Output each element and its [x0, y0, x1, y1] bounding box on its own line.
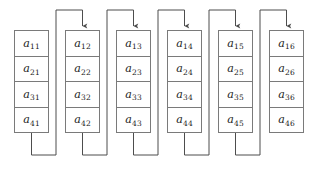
- cell-label-base: a: [74, 62, 81, 75]
- cell-label: a14: [176, 38, 193, 49]
- cell-a41: a41: [14, 107, 49, 134]
- cell-label: a21: [23, 63, 40, 74]
- cell-label: a46: [278, 114, 295, 125]
- cell-a22: a22: [65, 56, 100, 83]
- cell-label: a11: [23, 38, 40, 49]
- cell-label-subscript: 16: [285, 42, 295, 51]
- cell-a45: a45: [218, 107, 253, 134]
- cell-label-subscript: 46: [285, 119, 295, 128]
- cell-label: a31: [23, 89, 40, 100]
- cell-label-subscript: 21: [30, 68, 40, 77]
- cell-label: a23: [125, 63, 142, 74]
- cell-a11: a11: [14, 30, 49, 57]
- cell-label: a33: [125, 89, 142, 100]
- cell-a42: a42: [65, 107, 100, 134]
- cell-a13: a13: [116, 30, 151, 57]
- cell-label-base: a: [176, 37, 183, 50]
- cell-label-subscript: 11: [30, 42, 40, 51]
- cell-label-base: a: [227, 88, 234, 101]
- cell-label-base: a: [278, 113, 285, 126]
- cell-label-subscript: 14: [183, 42, 193, 51]
- cell-label-base: a: [176, 113, 183, 126]
- cell-label-base: a: [74, 88, 81, 101]
- column-5: a15a25a35a45: [218, 30, 253, 133]
- cell-a16: a16: [269, 30, 304, 57]
- cell-label-subscript: 24: [183, 68, 193, 77]
- cell-label: a45: [227, 114, 244, 125]
- cell-label: a43: [125, 114, 142, 125]
- cell-a36: a36: [269, 81, 304, 108]
- cell-a35: a35: [218, 81, 253, 108]
- cell-label-base: a: [227, 62, 234, 75]
- cell-a33: a33: [116, 81, 151, 108]
- cell-a23: a23: [116, 56, 151, 83]
- cell-label-base: a: [125, 62, 132, 75]
- cell-a24: a24: [167, 56, 202, 83]
- cell-label-base: a: [23, 62, 30, 75]
- cell-a31: a31: [14, 81, 49, 108]
- cell-label-subscript: 45: [234, 119, 244, 128]
- column-6: a16a26a36a46: [269, 30, 304, 133]
- cell-label: a35: [227, 89, 244, 100]
- column-1: a11a21a31a41: [14, 30, 49, 133]
- cell-label-subscript: 42: [81, 119, 91, 128]
- cell-label: a22: [74, 63, 91, 74]
- cell-label-subscript: 41: [30, 119, 40, 128]
- cell-label-subscript: 23: [132, 68, 142, 77]
- cell-label: a41: [23, 114, 40, 125]
- cell-label-subscript: 34: [183, 93, 193, 102]
- cell-label-subscript: 25: [234, 68, 244, 77]
- cell-a26: a26: [269, 56, 304, 83]
- cell-label: a26: [278, 63, 295, 74]
- cell-a43: a43: [116, 107, 151, 134]
- linked-array-diagram: a11a21a31a41a12a22a32a42a13a23a33a43a14a…: [0, 0, 313, 170]
- cell-label: a42: [74, 114, 91, 125]
- cell-label-base: a: [74, 113, 81, 126]
- cell-label-subscript: 15: [234, 42, 244, 51]
- cell-a21: a21: [14, 56, 49, 83]
- cell-label-subscript: 33: [132, 93, 142, 102]
- cell-label-base: a: [23, 113, 30, 126]
- cell-label: a25: [227, 63, 244, 74]
- cell-label-base: a: [23, 37, 30, 50]
- cell-label: a15: [227, 38, 244, 49]
- cell-label-base: a: [278, 62, 285, 75]
- cell-label: a44: [176, 114, 193, 125]
- cell-label-subscript: 22: [81, 68, 91, 77]
- cell-label-subscript: 36: [285, 93, 295, 102]
- cell-a12: a12: [65, 30, 100, 57]
- cell-label-subscript: 12: [81, 42, 91, 51]
- cell-label: a12: [74, 38, 91, 49]
- cell-a44: a44: [167, 107, 202, 134]
- cell-label-base: a: [125, 113, 132, 126]
- cell-label-base: a: [278, 88, 285, 101]
- cell-label: a24: [176, 63, 193, 74]
- cell-label: a34: [176, 89, 193, 100]
- cell-label-subscript: 31: [30, 93, 40, 102]
- cell-a46: a46: [269, 107, 304, 134]
- cell-label-base: a: [23, 88, 30, 101]
- cell-label-base: a: [125, 37, 132, 50]
- cell-label-base: a: [278, 37, 285, 50]
- cell-a14: a14: [167, 30, 202, 57]
- cell-a25: a25: [218, 56, 253, 83]
- cell-label-subscript: 44: [183, 119, 193, 128]
- cell-label-base: a: [227, 37, 234, 50]
- column-4: a14a24a34a44: [167, 30, 202, 133]
- cell-label-base: a: [74, 37, 81, 50]
- column-3: a13a23a33a43: [116, 30, 151, 133]
- cell-label-subscript: 13: [132, 42, 142, 51]
- cell-label-base: a: [176, 62, 183, 75]
- cell-label-subscript: 26: [285, 68, 295, 77]
- cell-label: a36: [278, 89, 295, 100]
- cell-a34: a34: [167, 81, 202, 108]
- cell-label-base: a: [227, 113, 234, 126]
- cell-label: a13: [125, 38, 142, 49]
- cell-label-base: a: [176, 88, 183, 101]
- column-2: a12a22a32a42: [65, 30, 100, 133]
- cell-label: a32: [74, 89, 91, 100]
- cell-label-subscript: 35: [234, 93, 244, 102]
- cell-a32: a32: [65, 81, 100, 108]
- cell-label-base: a: [125, 88, 132, 101]
- cell-label: a16: [278, 38, 295, 49]
